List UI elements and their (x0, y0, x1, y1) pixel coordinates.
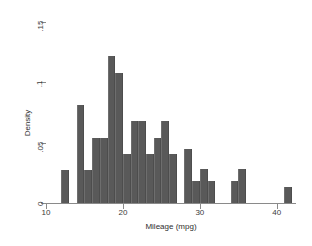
x-axis-title: Mileage (mpg) (46, 222, 296, 231)
x-tick-label: 10 (42, 208, 51, 217)
histogram-bar (108, 56, 116, 203)
histogram-bar (77, 105, 85, 203)
histogram-bar (154, 138, 162, 203)
x-tick-label: 40 (272, 208, 281, 217)
histogram-bar (192, 181, 200, 203)
histogram-bar (169, 154, 177, 203)
bars-layer (46, 22, 296, 203)
histogram-bar (100, 138, 108, 203)
histogram-bar (61, 170, 69, 203)
plot-area (46, 22, 296, 203)
histogram-bar (115, 73, 123, 203)
histogram-bar (123, 154, 131, 203)
histogram-bar (184, 149, 192, 203)
histogram-bar (161, 121, 169, 203)
histogram-chart: 0.05.1.15 10203040 Density Mileage (mpg) (0, 0, 312, 246)
histogram-bar (131, 121, 139, 203)
histogram-bar (92, 138, 100, 203)
histogram-bar (146, 154, 154, 203)
x-axis-line (46, 203, 296, 204)
histogram-bar (84, 170, 92, 203)
histogram-bar (208, 181, 216, 203)
histogram-bar (231, 181, 239, 203)
histogram-bar (138, 121, 146, 203)
x-tick-label: 30 (195, 208, 204, 217)
y-axis-title: Density (23, 110, 32, 137)
histogram-bar (238, 169, 246, 203)
histogram-bar (200, 169, 208, 203)
x-tick-label: 20 (118, 208, 127, 217)
histogram-bar (284, 187, 292, 203)
